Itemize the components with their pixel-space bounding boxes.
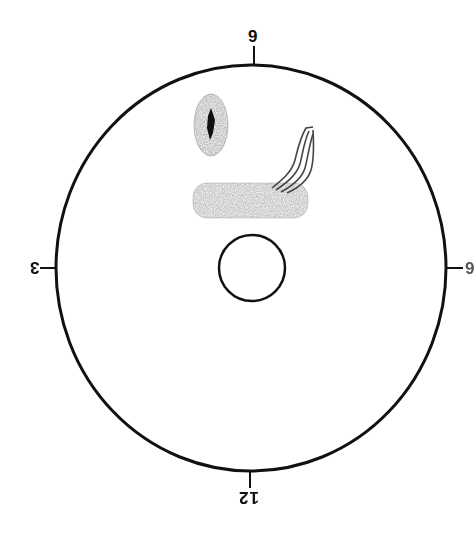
clock-label-right: 6: [465, 259, 474, 276]
clock-label-top: 9: [248, 28, 257, 45]
clock-label-bottom: 12: [238, 489, 259, 506]
shaded-band: [193, 183, 308, 218]
pigmented-lesion: [194, 94, 228, 156]
inner-circle: [219, 235, 285, 301]
outer-circle: [56, 65, 446, 471]
clock-label-left: 3: [30, 259, 39, 276]
